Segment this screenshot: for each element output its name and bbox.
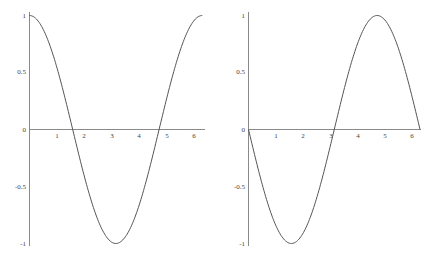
x-tick-label: 6 [192,132,196,140]
chart-canvas: 1 2 3 4 5 6 1 0.5 0 -0.5 -1 1 2 3 4 5 6 … [0,0,432,269]
chart-negative-sine: 1 2 3 4 5 6 1 0.5 0 -0.5 -1 [234,12,421,248]
x-tick-label: 3 [110,132,114,140]
x-tick-label: 6 [410,132,414,140]
y-tick-labels: 1 0.5 0 -0.5 -1 [234,12,246,248]
x-tick-label: 1 [55,132,59,140]
y-tick-label: 0 [23,126,27,134]
chart-cosine: 1 2 3 4 5 6 1 0.5 0 -0.5 -1 [15,12,205,248]
x-tick-label: 4 [356,132,360,140]
x-tick-label: 2 [301,132,305,140]
y-tick-label: 1 [23,12,27,20]
y-tick-label: 0.5 [17,68,26,76]
y-tick-labels: 1 0.5 0 -0.5 -1 [15,12,27,248]
y-tick-label: 0 [242,126,246,134]
x-tick-label: 5 [165,132,169,140]
x-tick-labels: 1 2 3 4 5 6 [55,132,196,140]
y-tick-label: -1 [20,240,26,248]
y-tick-label: -0.5 [234,183,246,191]
x-tick-label: 4 [137,132,141,140]
x-tick-label: 5 [383,132,387,140]
y-tick-label: 0.5 [236,68,245,76]
y-tick-label: 1 [242,12,246,20]
y-tick-label: -0.5 [15,183,27,191]
x-tick-label: 1 [274,132,278,140]
x-tick-label: 2 [82,132,86,140]
x-tick-labels: 1 2 3 4 5 6 [274,132,414,140]
y-tick-label: -1 [239,240,245,248]
